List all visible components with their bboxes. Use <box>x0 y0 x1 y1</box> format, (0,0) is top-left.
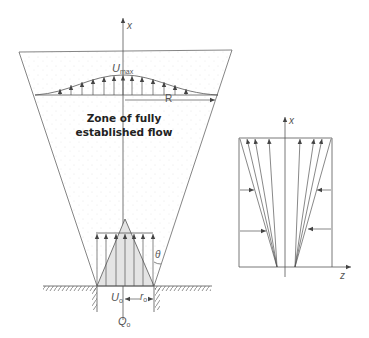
nozzle-wall <box>43 286 212 312</box>
side-x-axis-label: x <box>289 116 294 126</box>
side-diagram <box>239 117 351 277</box>
radius-label: R <box>165 94 172 104</box>
umax-label: Umax <box>112 63 133 75</box>
jet-diffusion-figure: x Umax R Zone of fully established flow … <box>0 0 369 338</box>
q0-label: Qo <box>118 316 130 328</box>
x-axis-label: x <box>127 21 132 31</box>
r0-label: ro <box>140 292 147 303</box>
theta-label: θ <box>155 250 160 260</box>
u0-label: Uo <box>111 292 123 304</box>
side-z-axis-label: z <box>340 271 345 281</box>
figure-drawing <box>0 0 369 338</box>
zone-label: Zone of fully established flow <box>64 111 184 139</box>
